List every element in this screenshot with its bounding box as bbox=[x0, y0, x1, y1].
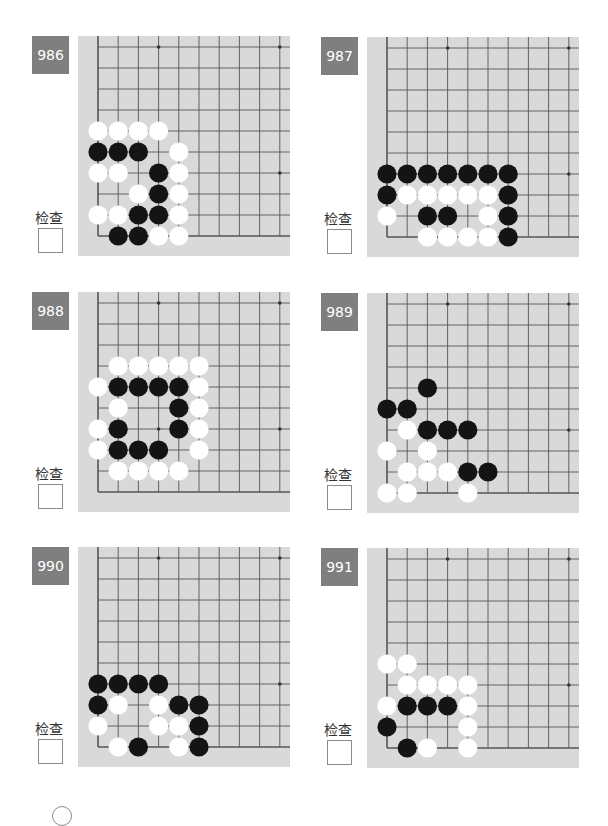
board-grid bbox=[367, 37, 579, 257]
go-board[interactable] bbox=[78, 36, 290, 256]
go-board[interactable] bbox=[78, 292, 290, 512]
black-stone bbox=[398, 696, 417, 715]
black-stone bbox=[149, 184, 168, 203]
star-point bbox=[157, 45, 161, 49]
board-grid bbox=[367, 293, 579, 513]
white-stone bbox=[478, 206, 497, 225]
white-stone bbox=[129, 461, 148, 480]
white-stone bbox=[189, 419, 208, 438]
check-label: 检查 bbox=[324, 208, 352, 228]
black-stone bbox=[169, 419, 188, 438]
black-stone bbox=[129, 226, 148, 245]
black-stone bbox=[109, 674, 128, 693]
white-stone bbox=[169, 226, 188, 245]
white-stone bbox=[88, 377, 107, 396]
white-stone bbox=[418, 738, 437, 757]
white-stone bbox=[88, 716, 107, 735]
white-stone bbox=[109, 398, 128, 417]
white-stone bbox=[458, 717, 477, 736]
white-stone bbox=[398, 185, 417, 204]
white-stone bbox=[109, 205, 128, 224]
star-point bbox=[567, 46, 571, 50]
white-stone bbox=[149, 716, 168, 735]
check-checkbox[interactable] bbox=[327, 485, 352, 510]
black-stone bbox=[458, 462, 477, 481]
white-stone bbox=[438, 185, 457, 204]
white-stone bbox=[169, 716, 188, 735]
black-stone bbox=[149, 440, 168, 459]
white-stone bbox=[88, 440, 107, 459]
white-stone bbox=[478, 227, 497, 246]
star-point bbox=[446, 557, 450, 561]
check-checkbox[interactable] bbox=[38, 484, 63, 509]
black-stone bbox=[109, 226, 128, 245]
star-point bbox=[567, 557, 571, 561]
check-checkbox[interactable] bbox=[327, 229, 352, 254]
star-point bbox=[446, 302, 450, 306]
black-stone bbox=[398, 738, 417, 757]
star-point bbox=[157, 427, 161, 431]
problem-number-label: 989 bbox=[321, 293, 358, 331]
white-stone bbox=[129, 121, 148, 140]
check-checkbox[interactable] bbox=[327, 740, 352, 765]
board-grid bbox=[78, 547, 290, 767]
star-point bbox=[278, 301, 282, 305]
black-stone bbox=[88, 695, 107, 714]
white-stone bbox=[169, 461, 188, 480]
white-stone bbox=[169, 356, 188, 375]
black-stone bbox=[499, 185, 518, 204]
white-stone bbox=[189, 356, 208, 375]
white-stone bbox=[109, 163, 128, 182]
black-stone bbox=[149, 163, 168, 182]
black-stone bbox=[438, 696, 457, 715]
black-stone bbox=[169, 398, 188, 417]
black-stone bbox=[499, 164, 518, 183]
white-stone bbox=[109, 121, 128, 140]
black-stone bbox=[129, 674, 148, 693]
white-stone bbox=[458, 696, 477, 715]
white-stone bbox=[377, 441, 396, 460]
white-stone bbox=[88, 121, 107, 140]
white-stone bbox=[109, 461, 128, 480]
black-stone bbox=[109, 419, 128, 438]
star-point bbox=[567, 428, 571, 432]
white-stone bbox=[149, 461, 168, 480]
white-stone bbox=[398, 483, 417, 502]
white-stone bbox=[189, 440, 208, 459]
black-stone bbox=[189, 716, 208, 735]
star-point bbox=[278, 45, 282, 49]
check-checkbox[interactable] bbox=[38, 739, 63, 764]
black-stone bbox=[458, 164, 477, 183]
black-stone bbox=[109, 142, 128, 161]
problem-991: 991 检查 bbox=[321, 548, 581, 770]
black-stone bbox=[88, 142, 107, 161]
black-stone bbox=[438, 420, 457, 439]
check-checkbox[interactable] bbox=[38, 228, 63, 253]
white-stone bbox=[149, 695, 168, 714]
black-stone bbox=[418, 206, 437, 225]
white-stone bbox=[149, 121, 168, 140]
problem-number-label: 990 bbox=[32, 547, 69, 585]
black-stone bbox=[438, 206, 457, 225]
black-stone bbox=[418, 378, 437, 397]
star-point bbox=[278, 427, 282, 431]
go-board[interactable] bbox=[78, 547, 290, 767]
black-stone bbox=[438, 164, 457, 183]
problem-990: 990 检查 bbox=[32, 547, 292, 769]
black-stone bbox=[149, 205, 168, 224]
go-board[interactable] bbox=[367, 37, 579, 257]
black-stone bbox=[499, 227, 518, 246]
check-label: 检查 bbox=[35, 463, 63, 483]
check-label: 检查 bbox=[35, 718, 63, 738]
black-stone bbox=[418, 696, 437, 715]
problem-989: 989 检查 bbox=[321, 293, 581, 515]
star-point bbox=[567, 302, 571, 306]
go-board[interactable] bbox=[367, 548, 579, 768]
white-stone bbox=[129, 184, 148, 203]
black-stone bbox=[418, 164, 437, 183]
problem-number-label: 987 bbox=[321, 37, 358, 75]
go-board[interactable] bbox=[367, 293, 579, 513]
black-stone bbox=[149, 377, 168, 396]
black-stone bbox=[418, 420, 437, 439]
black-stone bbox=[499, 206, 518, 225]
